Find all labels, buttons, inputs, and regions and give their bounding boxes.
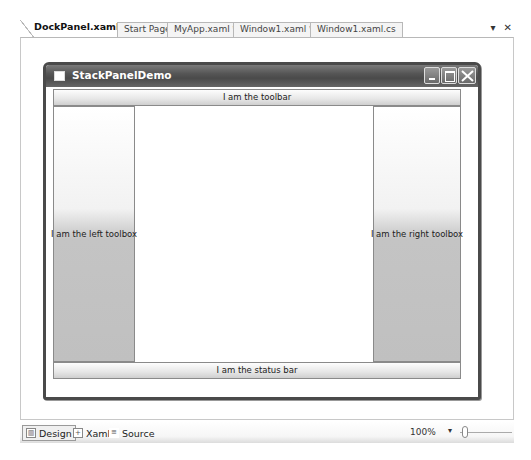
minimize-button[interactable] (424, 67, 440, 84)
left-toolbox-panel[interactable]: I am the left toolbox (53, 106, 135, 362)
tab-label: Window1.xaml.cs (317, 24, 396, 34)
left-toolbox-label: I am the left toolbox (51, 229, 137, 239)
tab-window1-xaml-cs[interactable]: Window1.xaml.cs (310, 22, 403, 38)
design-view-button[interactable]: ▥ Design (22, 425, 76, 441)
close-button[interactable] (458, 67, 476, 84)
window-title: StackPanelDemo (72, 69, 172, 81)
toolbar-panel[interactable]: I am the toolbar (53, 89, 461, 106)
zoom-dropdown-icon[interactable]: ▾ (448, 426, 452, 435)
source-label: Source (122, 428, 155, 439)
tab-list-dropdown-icon[interactable]: ▾ (491, 22, 496, 33)
tab-window1-xaml[interactable]: Window1.xaml * (233, 22, 321, 38)
tab-label: Start Page (124, 24, 171, 34)
zoom-slider-thumb[interactable] (462, 426, 468, 438)
window-title-bar[interactable]: StackPanelDemo (46, 65, 478, 87)
tab-label: DockPanel.xaml * (34, 21, 128, 32)
right-toolbox-label: I am the right toolbox (371, 229, 463, 239)
maximize-button[interactable] (441, 67, 457, 84)
view-switcher-bar: ▥ Design + Xaml ≡ Source 100% ▾ (20, 421, 514, 443)
xaml-icon: + (73, 428, 83, 438)
right-toolbox-panel[interactable]: I am the right toolbox (373, 106, 461, 362)
zoom-level: 100% (410, 427, 436, 437)
source-icon: ≡ (109, 428, 119, 438)
source-view-button[interactable]: ≡ Source (106, 425, 158, 441)
wpf-window-preview[interactable]: StackPanelDemo I am the toolbar I am the… (43, 62, 481, 400)
window-icon (54, 71, 65, 81)
document-tab-strip: DockPanel.xaml * Start Page MyApp.xaml *… (20, 20, 514, 38)
status-bar-panel[interactable]: I am the status bar (53, 362, 461, 379)
tab-label: Window1.xaml * (240, 24, 314, 34)
close-document-icon[interactable]: ✕ (504, 22, 512, 33)
design-label: Design (39, 428, 72, 439)
design-icon: ▥ (26, 428, 36, 438)
tab-label: MyApp.xaml * (174, 24, 237, 34)
close-icon (461, 70, 474, 82)
